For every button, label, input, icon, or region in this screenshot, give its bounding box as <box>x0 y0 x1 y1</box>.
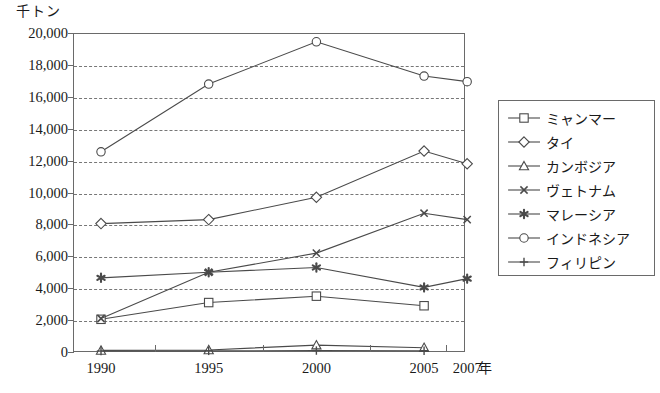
legend-item-label: インドネシア <box>546 228 630 248</box>
data-point-diamond-open <box>96 218 106 228</box>
data-point-circle-open <box>463 77 471 85</box>
legend-item-1: タイ <box>507 130 654 154</box>
x-axis-unit-caption: 年 <box>478 357 492 377</box>
y-tick-label: 16,000 <box>28 88 68 105</box>
legend-marker-diamond-open-icon <box>507 133 541 151</box>
data-point-diamond-open <box>419 146 429 156</box>
y-tick-label: 14,000 <box>28 120 68 137</box>
legend-item-3: ヴェトナム <box>507 178 654 202</box>
y-tick-label: 4,000 <box>35 280 68 297</box>
data-point-diamond-open <box>311 192 321 202</box>
data-point-diamond-open <box>519 137 529 147</box>
legend-item-2: カンボジア <box>507 154 654 178</box>
chart-canvas: 千トン 20,00018,00016,00014,00012,00010,000… <box>0 0 660 393</box>
series-5 <box>97 38 472 156</box>
legend-marker-triangle-open-icon <box>507 157 541 175</box>
legend-marker-plus-icon <box>507 253 541 271</box>
y-tick-label: 8,000 <box>35 216 68 233</box>
legend-marker-circle-open-icon <box>507 229 541 247</box>
x-tick-label: 1990 <box>87 360 116 377</box>
series-0 <box>97 292 428 324</box>
data-point-circle-open <box>204 80 212 88</box>
data-point-diamond-open <box>203 214 213 224</box>
series-4 <box>97 263 470 291</box>
data-point-plus <box>520 258 528 266</box>
data-point-circle-open <box>520 234 528 242</box>
data-point-square-open <box>420 302 428 310</box>
data-point-circle-open <box>420 72 428 80</box>
legend-item-6: フィリピン <box>507 250 654 274</box>
legend-item-0: ミャンマー <box>507 106 654 130</box>
legend-item-5: インドネシア <box>507 226 654 250</box>
legend-item-label: フィリピン <box>546 252 616 272</box>
legend-item-label: マレーシア <box>546 204 616 224</box>
data-point-circle-open <box>312 38 320 46</box>
legend-marker-star-filled-icon <box>507 205 541 223</box>
data-point-diamond-open <box>462 159 472 169</box>
y-tick-label: 12,000 <box>28 152 68 169</box>
x-tick-mark <box>263 345 264 352</box>
legend-item-label: タイ <box>546 132 574 152</box>
legend-item-4: マレーシア <box>507 202 654 226</box>
x-tick-mark <box>155 345 156 352</box>
y-tick-label: 10,000 <box>28 184 68 201</box>
x-axis-tick-labels: 19901995200020052007 <box>73 352 465 382</box>
legend-item-label: カンボジア <box>546 156 616 176</box>
y-axis-unit-caption: 千トン <box>16 0 61 20</box>
y-tick-label: 18,000 <box>28 56 68 73</box>
data-point-square-open <box>312 292 320 300</box>
x-tick-mark <box>446 345 447 352</box>
y-tick-label: 2,000 <box>35 312 68 329</box>
data-series-layer <box>73 33 465 352</box>
x-tick-label: 1995 <box>194 360 223 377</box>
legend-item-label: ミャンマー <box>546 108 616 128</box>
legend-marker-x-cross-icon <box>507 181 541 199</box>
data-point-square-open <box>204 298 212 306</box>
legend-marker-square-open-icon <box>507 109 541 127</box>
legend-item-label: ヴェトナム <box>546 180 616 200</box>
y-tick-label: 0 <box>61 344 68 361</box>
x-tick-label: 2005 <box>410 360 439 377</box>
data-point-circle-open <box>97 148 105 156</box>
y-tick-label: 20,000 <box>28 25 68 42</box>
x-tick-mark <box>370 345 371 352</box>
chart-legend: ミャンマータイカンボジアヴェトナムマレーシアインドネシアフィリピン <box>498 100 655 276</box>
y-tick-label: 6,000 <box>35 248 68 265</box>
data-point-square-open <box>520 114 528 122</box>
y-axis-tick-labels: 20,00018,00016,00014,00012,00010,0008,00… <box>0 33 68 352</box>
x-tick-label: 2000 <box>302 360 331 377</box>
